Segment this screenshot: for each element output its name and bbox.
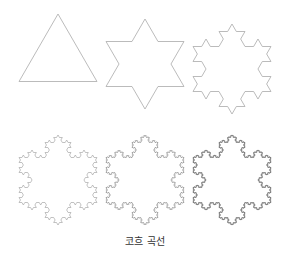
figure-caption: 코흐 곡선 (0, 233, 290, 248)
koch-iteration-1 (106, 19, 184, 109)
koch-snowflake-figure (0, 0, 290, 265)
koch-iteration-4 (106, 135, 184, 225)
koch-iteration-2 (193, 24, 271, 114)
koch-iteration-5 (193, 135, 271, 225)
koch-iteration-3 (19, 135, 97, 225)
koch-iteration-0 (19, 14, 97, 82)
